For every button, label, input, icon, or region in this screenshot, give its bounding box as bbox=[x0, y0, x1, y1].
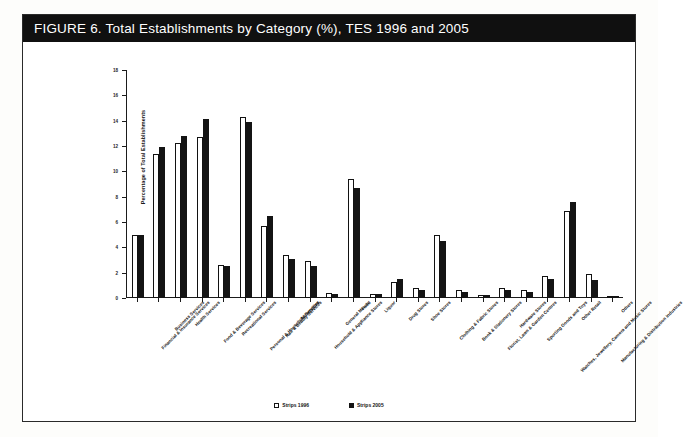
bar-group bbox=[586, 70, 598, 298]
bar-group bbox=[305, 70, 317, 298]
x-axis-category-label: Liquor bbox=[383, 300, 396, 313]
x-axis-category-label: Shoe Stores bbox=[429, 300, 451, 322]
bar-group bbox=[370, 70, 382, 298]
x-axis-category-label: Manufacturing & Distribution Industries bbox=[619, 300, 682, 363]
bar-strips-2005 bbox=[419, 290, 425, 298]
plot-area: Percentage of Total Establishments 02468… bbox=[23, 42, 635, 422]
bar-strips-2005 bbox=[484, 295, 490, 298]
x-axis-category-label: Financial & Insurance Services bbox=[160, 300, 210, 350]
bar-strips-2005 bbox=[311, 266, 317, 298]
bar-group bbox=[132, 70, 144, 298]
y-axis-tick-label: 12 bbox=[113, 144, 118, 149]
y-axis-tick-label: 18 bbox=[113, 68, 118, 73]
bar-strips-2005 bbox=[462, 292, 468, 298]
bar-strips-2005 bbox=[203, 119, 209, 298]
y-axis-tick-label: 14 bbox=[113, 118, 118, 123]
bar-group bbox=[326, 70, 338, 298]
bar-group bbox=[218, 70, 230, 298]
y-axis-tick-label: 4 bbox=[115, 245, 118, 250]
y-axis-tick-label: 6 bbox=[115, 220, 118, 225]
bar-group bbox=[564, 70, 576, 298]
y-axis-tick-label: 10 bbox=[113, 169, 118, 174]
bar-strips-2005 bbox=[376, 294, 382, 298]
page-title: FIGURE 6. Total Establishments by Catego… bbox=[34, 21, 469, 36]
bar-strips-2005 bbox=[440, 241, 446, 298]
filled-square-icon bbox=[349, 403, 354, 408]
bar-strips-2005 bbox=[527, 292, 533, 298]
x-axis-category-label: Food & Beverage Services bbox=[222, 300, 266, 344]
bar-strips-2005 bbox=[505, 290, 511, 298]
bar-group bbox=[456, 70, 468, 298]
x-axis-category-labels: Financial & Insurance ServicesBusiness S… bbox=[126, 300, 623, 400]
y-axis-tick-label: 2 bbox=[115, 270, 118, 275]
bars-layer bbox=[126, 70, 623, 298]
y-axis-tick: 0 bbox=[122, 298, 126, 299]
bar-group bbox=[521, 70, 533, 298]
bar-group bbox=[153, 70, 165, 298]
figure-title-bar: FIGURE 6. Total Establishments by Catego… bbox=[23, 15, 635, 42]
bar-strips-2005 bbox=[332, 294, 338, 298]
chart-legend: Strips 1996Strips 2005 bbox=[23, 402, 635, 408]
bar-group bbox=[499, 70, 511, 298]
bar-group bbox=[413, 70, 425, 298]
x-axis-category-label: Clothing & Fabric Stores bbox=[459, 300, 500, 341]
x-axis-category-label: Drug Stores bbox=[408, 300, 430, 322]
x-axis-category-label: Automotive bbox=[299, 300, 320, 321]
bar-group bbox=[348, 70, 360, 298]
bar-strips-2005 bbox=[159, 147, 165, 298]
bar-group bbox=[391, 70, 403, 298]
figure-frame: FIGURE 6. Total Establishments by Catego… bbox=[22, 14, 636, 422]
bar-group bbox=[434, 70, 446, 298]
x-axis-category-label: Household & Appliance Stores bbox=[333, 300, 383, 350]
y-axis-tick-label: 0 bbox=[115, 296, 118, 301]
bar-group bbox=[261, 70, 273, 298]
y-axis-tick-label: 8 bbox=[115, 194, 118, 199]
bar-strips-2005 bbox=[548, 279, 554, 298]
bar-group bbox=[175, 70, 187, 298]
bar-strips-2005 bbox=[246, 122, 252, 298]
bar-strips-2005 bbox=[613, 296, 619, 298]
bar-strips-2005 bbox=[354, 188, 360, 298]
bar-strips-2005 bbox=[138, 235, 144, 298]
bar-strips-2005 bbox=[570, 202, 576, 298]
bar-strips-2005 bbox=[267, 216, 273, 298]
legend-item: Strips 1996 bbox=[274, 402, 309, 408]
bar-group bbox=[478, 70, 490, 298]
chart-axes: 024681012141618 bbox=[126, 70, 623, 298]
bar-group bbox=[240, 70, 252, 298]
hollow-square-icon bbox=[274, 403, 279, 408]
legend-label: Strips 2005 bbox=[357, 402, 384, 408]
bar-strips-2005 bbox=[224, 266, 230, 298]
legend-label: Strips 1996 bbox=[282, 402, 309, 408]
x-axis-category-label: Others bbox=[620, 300, 634, 314]
bar-strips-2005 bbox=[592, 280, 598, 298]
bar-group bbox=[197, 70, 209, 298]
x-axis-category-label: Book & Stationery Stores bbox=[481, 300, 523, 342]
y-axis-tick-label: 16 bbox=[113, 93, 118, 98]
bar-strips-2005 bbox=[181, 136, 187, 298]
bar-strips-2005 bbox=[289, 259, 295, 298]
bar-group bbox=[542, 70, 554, 298]
bar-group bbox=[607, 70, 619, 298]
legend-item: Strips 2005 bbox=[349, 402, 384, 408]
bar-strips-2005 bbox=[397, 279, 403, 298]
bar-group bbox=[283, 70, 295, 298]
